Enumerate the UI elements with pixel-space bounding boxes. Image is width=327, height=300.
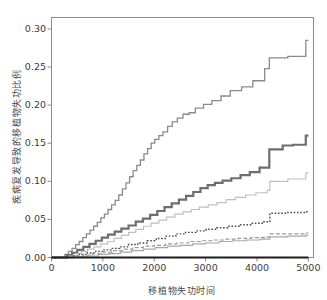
y-tick-label: 0.15 (16, 138, 46, 148)
data-series-group (52, 40, 309, 257)
x-tick-label: 3000 (184, 262, 228, 273)
y-tick-label: 0.25 (16, 62, 46, 72)
x-tick-label: 5000 (286, 262, 327, 273)
plot-canvas (0, 0, 327, 300)
x-tick-label: 4000 (235, 262, 279, 273)
y-tick-label: 0.00 (16, 253, 46, 263)
cumulative-incidence-chart: 疾病复发导致的移植物失功比例 移植物失功时间 0.000.050.100.150… (0, 0, 327, 300)
series-curve-4-dotted (52, 212, 309, 258)
y-tick-label: 0.20 (16, 100, 46, 110)
y-tick-label: 0.05 (16, 214, 46, 224)
y-tick-label: 0.30 (16, 24, 46, 34)
plot-frame (52, 18, 314, 258)
x-tick-label: 0 (30, 262, 74, 273)
x-tick-label: 2000 (132, 262, 176, 273)
plot-border (52, 18, 314, 258)
y-tick-label: 0.10 (16, 176, 46, 186)
x-axis-label: 移植物失功时间 (51, 284, 313, 297)
x-tick-label: 1000 (81, 262, 125, 273)
